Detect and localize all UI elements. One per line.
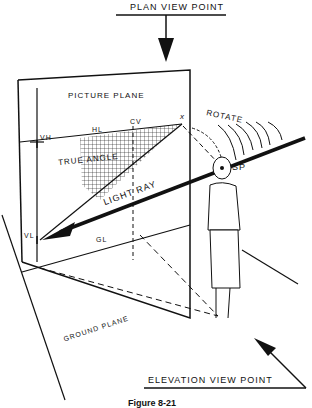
picture-plane-label: PICTURE PLANE bbox=[68, 91, 145, 100]
vl-label: VL bbox=[24, 232, 35, 239]
gl-label: GL bbox=[96, 236, 107, 243]
vh-label: VH bbox=[40, 134, 52, 141]
perspective-diagram bbox=[0, 0, 312, 408]
figure-caption: Figure 8-21 bbox=[128, 398, 176, 408]
elevation-view-arrow-icon bbox=[254, 338, 276, 356]
cv-label: CV bbox=[130, 118, 142, 125]
plan-view-arrow-icon bbox=[158, 38, 174, 62]
x-label: x bbox=[180, 112, 185, 121]
hl-label: HL bbox=[92, 126, 103, 133]
observer-figure-icon bbox=[208, 157, 240, 318]
plan-view-point-label: PLAN VIEW POINT bbox=[130, 2, 224, 12]
sp-label: SP bbox=[232, 162, 246, 172]
elevation-view-point-label: ELEVATION VIEW POINT bbox=[148, 375, 273, 385]
